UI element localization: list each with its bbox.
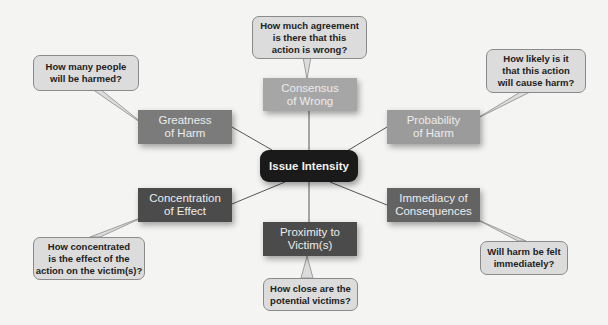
link-immediacy [330, 182, 387, 205]
factor-probability-of-harm: Probability of Harm [387, 110, 480, 144]
factor-greatness-of-harm: Greatness of Harm [138, 110, 232, 144]
question-greatness: How many people will be harmed? [33, 55, 139, 91]
pointer-probability [476, 91, 532, 119]
question-concentration: How concentrated is the effect of the ac… [33, 237, 145, 280]
link-concentration [232, 182, 285, 204]
issue-intensity-center: Issue Intensity [260, 150, 358, 182]
question-immediacy: Will harm be felt immediately? [480, 241, 568, 275]
factor-consensus-of-wrong: Consensus of Wrong [263, 78, 357, 111]
link-greatness [232, 127, 272, 150]
pointer-immediacy [476, 219, 526, 241]
question-proximity: How close are the potential victims? [263, 278, 358, 311]
link-probability [347, 127, 387, 151]
factor-proximity-to-victims: Proximity to Victim(s) [263, 222, 357, 256]
question-consensus: How much agreement is there that this ac… [252, 16, 367, 59]
pointer-consensus [303, 57, 311, 79]
factor-immediacy-of-consequences: Immediacy of Consequences [387, 188, 480, 222]
pointer-proximity [301, 256, 313, 278]
question-probability: How likely is it that this action will c… [486, 49, 586, 93]
factor-concentration-of-effect: Concentration of Effect [138, 188, 232, 222]
